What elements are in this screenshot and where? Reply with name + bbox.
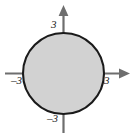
x-axis-tick-label-negative: –3 [11,75,22,86]
x-axis-tick-label-positive: 3 [104,75,110,86]
y-axis-arrowhead-icon [59,5,69,16]
x-axis-arrowhead-icon [119,69,130,79]
y-axis-tick-label-positive: 3 [51,19,57,30]
shaded-disk [23,33,104,114]
coordinate-plot [0,0,137,136]
figure-canvas: 3 3 –3 –3 [0,0,137,136]
y-axis-tick-label-negative: –3 [47,113,58,124]
